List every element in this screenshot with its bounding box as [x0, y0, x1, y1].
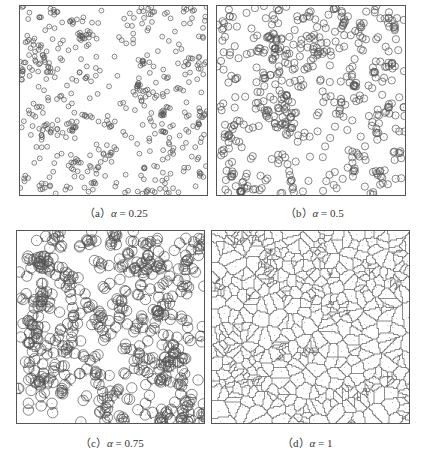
caption-b-value: = 0.5 [318, 207, 343, 219]
caption-d: （d）α = 1 [282, 434, 333, 450]
panel-b-plot [216, 5, 406, 196]
point-pattern-b [217, 6, 405, 195]
caption-c: （c）α = 0.75 [80, 434, 144, 450]
point-pattern-a [20, 6, 207, 195]
panel-a-plot [19, 5, 208, 196]
caption-a-value: = 0.25 [117, 207, 148, 219]
panel-c-plot [16, 230, 205, 424]
caption-d-label: （d） [282, 437, 310, 449]
caption-d-value: = 1 [315, 437, 332, 449]
caption-b-label: （b） [285, 207, 313, 219]
point-pattern-c [17, 231, 204, 423]
panel-d-plot [211, 230, 410, 424]
caption-a-label: （a） [84, 207, 111, 219]
voronoi-pattern-d [212, 231, 409, 423]
caption-c-value: = 0.75 [113, 437, 144, 449]
caption-a: （a）α = 0.25 [84, 204, 148, 220]
caption-b: （b）α = 0.5 [285, 204, 344, 220]
caption-c-label: （c） [80, 437, 107, 449]
